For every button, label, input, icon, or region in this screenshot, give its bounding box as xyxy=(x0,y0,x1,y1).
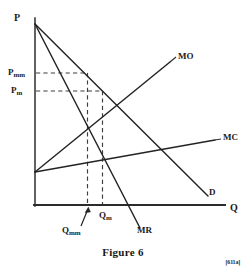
curve-label-mc: MC xyxy=(223,133,238,142)
q-mm-arrow-annotation xyxy=(81,207,90,226)
figure-caption: Figure 6 xyxy=(0,246,246,258)
curve-label-mr: MR xyxy=(137,226,152,235)
mc-label-leader xyxy=(215,139,221,140)
price-tick-pm-sub: m xyxy=(17,89,23,97)
quantity-tick-qm-base: Q xyxy=(99,210,106,220)
quantity-tick-qm-sub: m xyxy=(106,214,112,222)
plate-code-label: [611a] xyxy=(226,259,240,265)
price-tick-pmm-sub: mm xyxy=(14,71,26,79)
price-tick-pm-base: P xyxy=(11,85,17,95)
guide-lines-group xyxy=(36,73,103,204)
demand-curve-d xyxy=(35,24,208,196)
marginal-cost-curve-mc xyxy=(35,140,215,172)
quantity-tick-label-qm: Qm xyxy=(99,211,112,220)
y-axis-label: P xyxy=(14,13,20,23)
price-tick-label-pmm: Pmm xyxy=(8,68,25,77)
curve-label-mo: MO xyxy=(178,52,194,61)
price-tick-pmm-base: P xyxy=(8,67,14,77)
price-tick-label-pm: Pm xyxy=(11,86,22,95)
x-axis-label: Q xyxy=(230,203,238,213)
quantity-tick-qmm-base: Q xyxy=(62,225,69,235)
figure-6-diagram: P Q Pmm Pm Qmm Qm MO MC MR D Figure 6 [6… xyxy=(0,0,246,276)
diagram-canvas xyxy=(0,0,246,276)
marginal-revenue-curve-mr xyxy=(35,24,140,228)
axes-group xyxy=(34,18,225,206)
quantity-tick-label-qmm: Qmm xyxy=(62,226,81,235)
q-mm-arrow-head xyxy=(85,207,90,212)
quantity-tick-qmm-sub: mm xyxy=(69,229,81,237)
curve-label-d: D xyxy=(209,188,216,197)
label-leaders-group xyxy=(170,57,221,140)
mo-label-leader xyxy=(170,57,176,62)
